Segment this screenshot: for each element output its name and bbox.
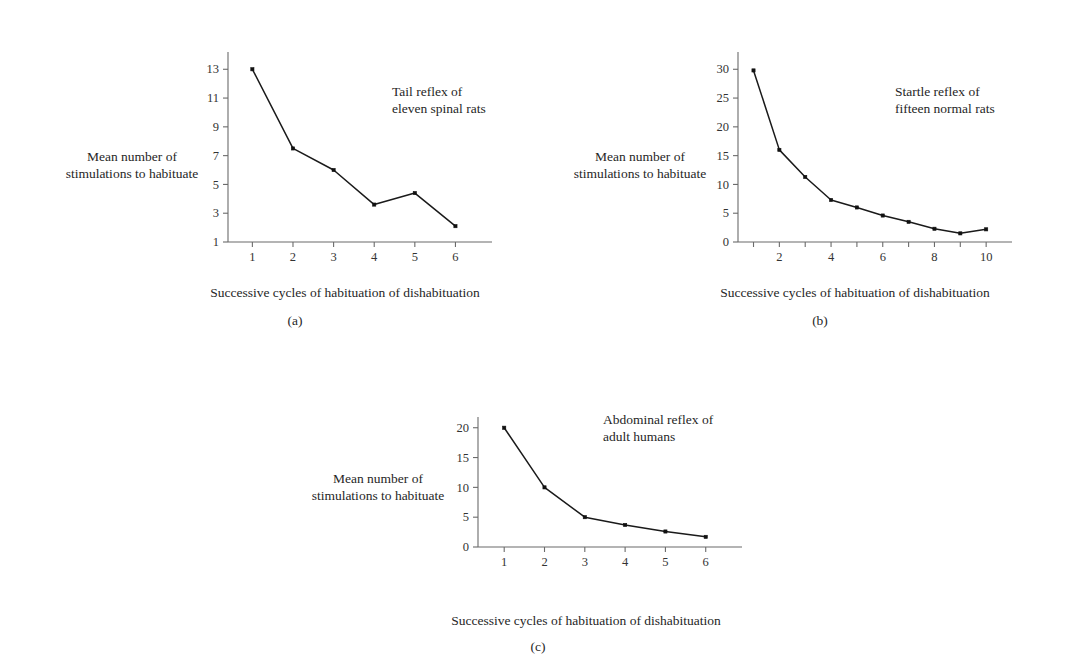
- y-tick-label: 30: [717, 62, 730, 76]
- x-tick-label: 2: [290, 250, 296, 264]
- y-tick-label: 1: [213, 235, 219, 249]
- x-tick-label: 3: [330, 250, 336, 264]
- y-tick-label: 13: [207, 62, 220, 76]
- x-tick-label: 8: [931, 250, 937, 264]
- panel-c-title: Abdominal reflex of adult humans: [603, 411, 793, 446]
- chart-b-svg: 051015202530246810: [710, 40, 1020, 280]
- series-data-point: [583, 516, 586, 519]
- panel-b: 051015202530246810 Mean number of stimul…: [540, 0, 1079, 340]
- x-tick-label: 6: [880, 250, 886, 264]
- series-data-point: [664, 530, 667, 533]
- panel-a-plot-area: 135791113123456: [200, 40, 500, 280]
- y-tick-label: 10: [457, 481, 470, 495]
- series-data-point: [251, 68, 254, 71]
- series-data-point: [373, 203, 376, 206]
- series-data-point: [855, 206, 858, 209]
- y-tick-label: 20: [717, 120, 730, 134]
- panel-c-x-axis-caption: Successive cycles of habituation of dish…: [396, 613, 776, 629]
- y-tick-label: 3: [213, 206, 219, 220]
- panel-b-caption: (b): [790, 313, 850, 329]
- panel-c: 05101520123456 Mean number of stimulatio…: [250, 380, 850, 672]
- chart-a-svg: 135791113123456: [200, 40, 500, 280]
- x-tick-label: 2: [776, 250, 782, 264]
- y-tick-label: 15: [457, 451, 470, 465]
- panel-b-y-axis-caption: Mean number of stimulations to habituate: [560, 148, 720, 183]
- panel-b-x-axis-caption: Successive cycles of habituation of dish…: [665, 285, 1045, 301]
- y-tick-label: 0: [463, 540, 469, 554]
- x-tick-label: 1: [249, 250, 255, 264]
- series-data-point: [959, 232, 962, 235]
- series-data-point: [291, 147, 294, 150]
- x-tick-label: 1: [501, 555, 507, 569]
- y-tick-label: 20: [457, 421, 470, 435]
- panel-a-caption: (a): [265, 313, 325, 329]
- y-tick-label: 5: [463, 510, 469, 524]
- series-data-point: [503, 426, 506, 429]
- x-tick-label: 2: [541, 555, 547, 569]
- panel-b-plot-area: 051015202530246810: [710, 40, 1020, 280]
- series-data-point: [829, 198, 832, 201]
- x-tick-label: 4: [828, 250, 835, 264]
- series-data-point: [881, 214, 884, 217]
- panel-b-title: Startle reflex of fifteen normal rats: [895, 83, 1079, 118]
- y-tick-label: 5: [213, 178, 219, 192]
- figure-root: 135791113123456 Mean number of stimulati…: [0, 0, 1079, 672]
- series-data-point: [933, 227, 936, 230]
- panel-a-x-axis-caption: Successive cycles of habituation of dish…: [155, 285, 535, 301]
- y-tick-label: 25: [717, 91, 730, 105]
- y-tick-label: 0: [723, 235, 729, 249]
- panel-c-y-axis-caption: Mean number of stimulations to habituate: [298, 470, 458, 505]
- series-data-point: [704, 535, 707, 538]
- panel-a-y-axis-caption: Mean number of stimulations to habituate: [52, 148, 212, 183]
- series-data-point: [804, 175, 807, 178]
- series-data-point: [454, 225, 457, 228]
- panel-a: 135791113123456 Mean number of stimulati…: [0, 0, 480, 340]
- x-tick-label: 6: [703, 555, 709, 569]
- series-data-point: [778, 148, 781, 151]
- series-data-point: [752, 69, 755, 72]
- series-data-point: [624, 523, 627, 526]
- y-tick-label: 5: [723, 206, 729, 220]
- y-tick-label: 7: [213, 149, 219, 163]
- series-data-point: [543, 486, 546, 489]
- series-data-point: [907, 220, 910, 223]
- x-tick-label: 3: [582, 555, 588, 569]
- x-tick-label: 5: [412, 250, 418, 264]
- x-tick-label: 4: [371, 250, 378, 264]
- x-tick-label: 6: [452, 250, 458, 264]
- y-tick-label: 11: [207, 91, 219, 105]
- series-data-point: [413, 191, 416, 194]
- panel-c-caption: (c): [508, 639, 568, 655]
- x-tick-label: 4: [622, 555, 629, 569]
- x-tick-label: 5: [662, 555, 668, 569]
- y-tick-label: 9: [213, 120, 219, 134]
- series-data-point: [985, 228, 988, 231]
- series-data-point: [332, 168, 335, 171]
- x-tick-label: 10: [980, 250, 993, 264]
